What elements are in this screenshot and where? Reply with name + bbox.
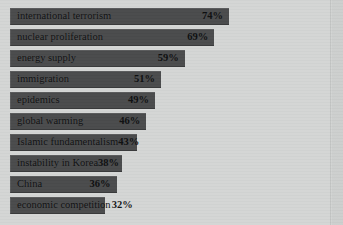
bar-row: international terrorism74% [0, 8, 331, 29]
bar-category-label: Islamic fundamentalism [11, 137, 118, 148]
bar-category-label: energy supply [11, 53, 76, 64]
bar-value-label: 51% [134, 74, 161, 85]
bar-category-label: China [11, 179, 42, 190]
bar: Islamic fundamentalism43% [10, 134, 137, 151]
bar-category-label: instability in Korea [11, 158, 98, 169]
bar-category-label: nuclear proliferation [11, 32, 103, 43]
bar-row: global warming46% [0, 113, 331, 134]
bar-value-label: 36% [90, 179, 117, 190]
bar-row: immigration51% [0, 71, 331, 92]
bar-chart: international terrorism74%nuclear prolif… [0, 8, 331, 218]
bar: energy supply59% [10, 50, 185, 67]
bar-value-label: 59% [158, 53, 185, 64]
bar-row: Islamic fundamentalism43% [0, 134, 331, 155]
bar-value-label: 32% [105, 200, 133, 211]
bar-value-label: 74% [202, 11, 229, 22]
bar-row: energy supply59% [0, 50, 331, 71]
chart-title-clipped: 2006 [8, 0, 31, 2]
bar-category-label: international terrorism [11, 11, 111, 22]
bar: immigration51% [10, 71, 161, 88]
chart-screenshot: 2006 international terrorism74%nuclear p… [0, 0, 343, 225]
bar-category-label: epidemics [11, 95, 60, 106]
bar-row: instability in Korea38% [0, 155, 331, 176]
bar: global warming46% [10, 113, 146, 130]
bar: economic competition32% [10, 197, 105, 214]
panel-right-margin [332, 0, 343, 225]
bar-category-label: immigration [11, 74, 69, 85]
bar-value-label: 43% [118, 137, 145, 148]
bar-value-label: 38% [98, 158, 125, 169]
bar-value-label: 46% [119, 116, 146, 127]
bar: nuclear proliferation69% [10, 29, 214, 46]
bar-value-label: 49% [128, 95, 155, 106]
bar: epidemics49% [10, 92, 155, 109]
bar: international terrorism74% [10, 8, 229, 25]
bar-row: China36% [0, 176, 331, 197]
bar-category-label: economic competition [11, 200, 111, 211]
bar: instability in Korea38% [10, 155, 122, 172]
bar-category-label: global warming [11, 116, 83, 127]
bar: China36% [10, 176, 117, 193]
bar-row: economic competition32% [0, 197, 331, 218]
bar-row: epidemics49% [0, 92, 331, 113]
bar-value-label: 69% [187, 32, 214, 43]
bar-row: nuclear proliferation69% [0, 29, 331, 50]
